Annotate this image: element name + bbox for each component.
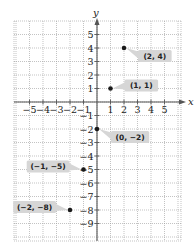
- label-leader: [126, 48, 140, 60]
- x-tick-label: 5: [161, 104, 167, 115]
- data-point: (1, 1): [108, 80, 158, 92]
- x-tick-label: −3: [49, 104, 63, 115]
- point-marker: [81, 167, 86, 172]
- x-tick-label: −5: [22, 104, 36, 115]
- point-label: (0, −2): [116, 133, 145, 142]
- x-tick-label: −2: [63, 104, 77, 115]
- data-point: (−1, −5): [27, 161, 86, 173]
- point-marker: [95, 127, 100, 132]
- y-tick-label: −2: [79, 124, 93, 135]
- y-tick-label: 2: [87, 70, 93, 81]
- y-tick-label: −6: [79, 178, 93, 189]
- y-tick-label: 3: [87, 56, 93, 67]
- label-leader: [113, 82, 127, 90]
- y-tick-label: 4: [87, 43, 93, 54]
- y-tick-label: −3: [79, 137, 93, 148]
- label-leader: [54, 203, 68, 211]
- point-marker: [122, 46, 127, 51]
- point-marker: [108, 86, 113, 91]
- point-label: (1, 1): [130, 81, 153, 90]
- y-tick-label: −1: [79, 110, 93, 121]
- point-label: (−2, −8): [17, 203, 52, 212]
- point-label: (−1, −5): [30, 162, 65, 171]
- y-tick-label: 5: [87, 29, 93, 40]
- data-point: (−2, −8): [13, 201, 72, 213]
- y-axis-arrow-icon: [95, 18, 100, 25]
- y-tick-label: −8: [79, 205, 93, 216]
- x-axis-label: x: [188, 96, 194, 107]
- label-leader: [99, 129, 113, 141]
- x-tick-label: 4: [148, 104, 154, 115]
- y-axis-label: y: [92, 7, 99, 18]
- y-tick-label: −9: [79, 218, 93, 229]
- x-tick-label: 3: [134, 104, 140, 115]
- x-tick-label: −4: [36, 104, 50, 115]
- coordinate-plane: x y −5−4−3−2−11234554321−1−2−3−4−5−6−7−8…: [0, 0, 195, 247]
- x-tick-label: 1: [107, 104, 113, 115]
- y-tick-label: −7: [79, 191, 93, 202]
- point-marker: [68, 208, 73, 213]
- x-axis-arrow-icon: [179, 100, 186, 105]
- y-tick-label: 1: [87, 83, 93, 94]
- x-tick-label: 2: [121, 104, 127, 115]
- y-tick-label: −4: [79, 151, 93, 162]
- point-label: (2, 4): [143, 52, 166, 61]
